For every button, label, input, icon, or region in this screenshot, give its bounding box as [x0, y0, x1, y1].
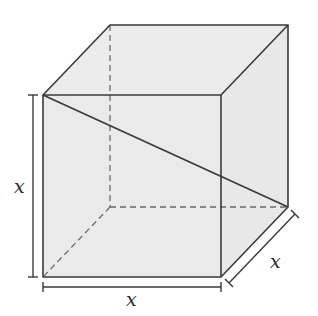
- depth-label: x: [270, 250, 281, 272]
- cube-diagram: x x x: [0, 0, 318, 316]
- front-face: [43, 95, 221, 277]
- width-label: x: [126, 288, 137, 310]
- height-label: x: [14, 175, 25, 197]
- height-dimension: [28, 95, 38, 277]
